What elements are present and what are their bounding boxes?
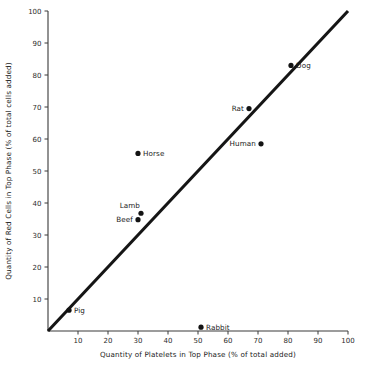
chart-canvas: 102030405060708090100 102030405060708090… xyxy=(0,0,365,369)
x-tick-label: 100 xyxy=(341,337,354,345)
y-tick-label: 10 xyxy=(33,296,42,304)
x-tick-label: 70 xyxy=(254,337,263,345)
data-point-marker[interactable] xyxy=(198,325,203,330)
y-tick-label: 20 xyxy=(33,264,42,272)
y-tick-label: 70 xyxy=(33,104,42,112)
data-point-label: Pig xyxy=(74,306,85,315)
data-point-label: Beef xyxy=(116,215,133,224)
y-tick-label: 90 xyxy=(33,40,42,48)
data-point-label: Horse xyxy=(143,149,165,158)
data-point-label: Human xyxy=(230,139,256,148)
scatter-chart: 102030405060708090100 102030405060708090… xyxy=(0,0,365,369)
y-tick-label: 100 xyxy=(28,8,41,16)
x-tick-label: 50 xyxy=(194,337,203,345)
x-axis-title: Quantity of Platelets in Top Phase (% of… xyxy=(100,350,296,359)
data-point-marker[interactable] xyxy=(135,217,140,222)
y-tick-label: 60 xyxy=(33,136,42,144)
data-point-marker[interactable] xyxy=(138,211,143,216)
x-tick-label: 40 xyxy=(164,337,173,345)
y-tick-label: 40 xyxy=(33,200,42,208)
x-tick-label: 20 xyxy=(104,337,113,345)
data-point-marker[interactable] xyxy=(288,63,293,68)
y-tick-label: 30 xyxy=(33,232,42,240)
data-point-marker[interactable] xyxy=(246,106,251,111)
data-point-marker[interactable] xyxy=(258,141,263,146)
y-tick-label: 50 xyxy=(33,168,42,176)
x-tick-label: 30 xyxy=(134,337,143,345)
x-tick-label: 60 xyxy=(224,337,233,345)
y-tick-label: 80 xyxy=(33,72,42,80)
data-point-label: Rat xyxy=(232,104,244,113)
data-point-marker[interactable] xyxy=(135,151,140,156)
data-point-marker[interactable] xyxy=(66,308,71,313)
x-tick-label: 10 xyxy=(74,337,83,345)
chart-background xyxy=(0,0,365,369)
x-tick-label: 90 xyxy=(314,337,323,345)
data-point-label: Rabbit xyxy=(206,323,230,332)
y-axis-title: Quantity of Red Cells in Top Phase (% of… xyxy=(4,62,13,279)
data-point-label: Lamb xyxy=(120,201,141,210)
data-point-label: Dog xyxy=(296,61,311,70)
x-tick-label: 80 xyxy=(284,337,293,345)
